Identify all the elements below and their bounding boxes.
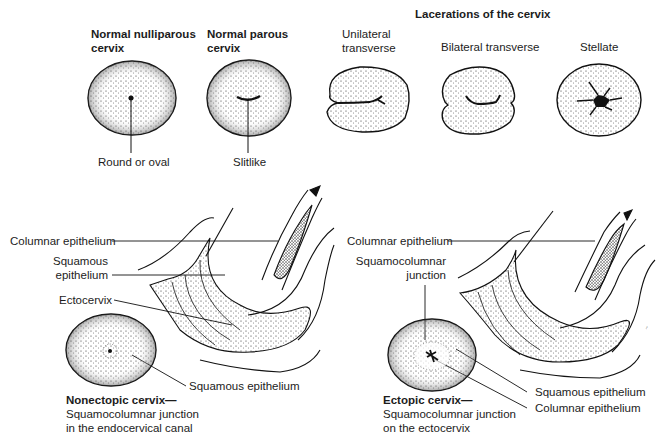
parous-cervix-drawing <box>207 60 291 153</box>
nulliparous-cervix-drawing <box>88 61 176 153</box>
right-squamous-epithelium-label: Squamous epithelium <box>535 385 646 399</box>
right-columnar-epithelium-label: Columnar epithelium <box>347 234 452 248</box>
artist-signature: ~ <box>643 325 650 331</box>
slitlike-label: Slitlike <box>233 155 266 169</box>
right-sagittal-cervix-drawing <box>458 210 655 378</box>
lacerations-section-title: Lacerations of the cervix <box>415 7 551 21</box>
nonectopic-caption: Nonectopic cervix— Squamocolumnar juncti… <box>66 393 199 435</box>
unilateral-laceration-drawing <box>327 67 409 132</box>
left-squamous-epithelium-label: Squamous epithelium <box>50 254 108 282</box>
round-or-oval-label: Round or oval <box>98 155 170 169</box>
left-sagittal-cervix-drawing <box>138 186 334 372</box>
ectopic-caption: Ectopic cervix— Squamocolumnar junction … <box>383 393 516 435</box>
unilateral-title: Unilateral transverse <box>342 27 396 55</box>
nulliparous-title: Normal nulliparous cervix <box>91 27 196 55</box>
left-squamous-epithelium-bottom-label: Squamous epithelium <box>189 379 300 393</box>
illustration: ~ <box>0 0 668 436</box>
bilateral-laceration-drawing <box>442 67 514 134</box>
bilateral-title: Bilateral transverse <box>441 40 539 54</box>
squamocolumnar-junction-label: Squamocolumnar junction <box>350 254 446 282</box>
stellate-laceration-drawing <box>557 64 641 136</box>
nonectopic-cervix-drawing <box>66 314 156 386</box>
right-columnar-epithelium-bottom-label: Columnar epithelium <box>535 401 640 415</box>
left-columnar-epithelium-label: Columnar epithelium <box>10 234 115 248</box>
ectocervix-label: Ectocervix <box>59 293 112 307</box>
parous-title: Normal parous cervix <box>207 27 288 55</box>
ectopic-cervix-drawing <box>388 319 476 391</box>
stellate-title: Stellate <box>580 40 618 54</box>
